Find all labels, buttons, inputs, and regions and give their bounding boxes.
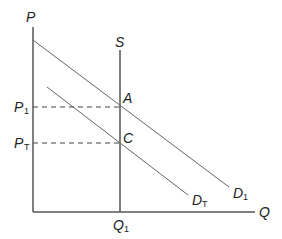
svg-text:D: D (192, 192, 202, 208)
p1-label: P 1 (14, 99, 29, 116)
x-axis-label: Q (259, 204, 270, 220)
svg-text:P: P (14, 135, 24, 151)
supply-label: S (115, 34, 125, 50)
pt-label: P T (14, 135, 30, 152)
svg-text:1: 1 (24, 106, 29, 116)
svg-text:1: 1 (243, 192, 248, 202)
point-a-label: A (122, 90, 132, 106)
svg-text:D: D (233, 185, 243, 201)
supply-demand-diagram: P Q S A C P 1 P T Q 1 D 1 D T (0, 0, 282, 239)
dt-label: D T (192, 192, 208, 209)
demand-curve-d1 (33, 40, 229, 187)
d1-label: D 1 (233, 185, 248, 202)
svg-text:T: T (202, 199, 208, 209)
q1-label: Q 1 (113, 217, 129, 234)
svg-text:T: T (24, 142, 30, 152)
svg-text:P: P (14, 99, 24, 115)
svg-text:1: 1 (124, 224, 129, 234)
point-c-label: C (123, 130, 134, 146)
svg-text:Q: Q (113, 217, 124, 233)
y-axis-label: P (26, 9, 36, 25)
